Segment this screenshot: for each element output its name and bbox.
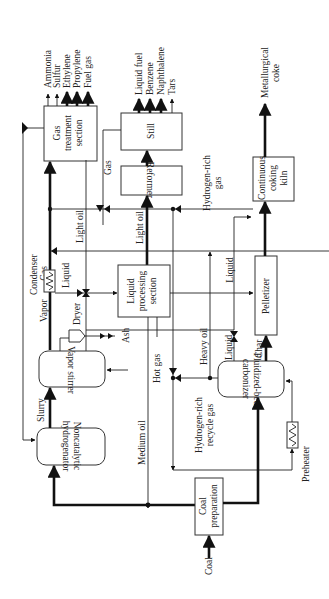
product-ethylene: Ethylene [62,54,72,88]
kiln-liquid-return [234,217,251,330]
heavy-oil-label: Heavy oil [199,327,209,365]
light-oil-label-2: Light oil [135,211,145,244]
hydrogen-rich-gas-label-2: gas [213,176,223,189]
product-tars: Tars [167,78,177,95]
svg-text:treatment: treatment [63,115,73,151]
condenser [44,270,55,292]
svg-text:hydrogenator: hydrogenator [61,421,71,472]
coal-label: Coal [204,557,214,575]
svg-text:section: section [74,119,84,146]
preheater-label: Preheater [301,445,311,482]
condenser-gas-line [50,247,329,255]
product-sulfur: Sulfur [52,63,62,88]
svg-text:processing: processing [137,270,147,311]
hydrogen-rich-gas-label: Hydrogen-rich [202,155,212,211]
svg-text:Hydrogen-rich: Hydrogen-rich [194,397,204,453]
liquid-label-condenser: Liquid [61,262,71,288]
char-label: Char [254,339,264,358]
svg-text:kiln: kiln [279,170,289,185]
svg-text:coking: coking [268,165,278,191]
metallurgical-coke-label: Metallurgical [260,47,270,98]
noncatalytic-hydrogenator-label: Noncatalytic hydrogenator [61,421,82,472]
slurry-label: Slurry [36,398,46,422]
vapor-label: Vapor [39,298,49,322]
process-flow-diagram: Gas treatment section Ammonia Sulfur Eth… [0,0,329,599]
ash-label: Ash [121,327,131,343]
gas-products: Ammonia Sulfur Ethylene Propylene Fuel g… [43,49,93,106]
coal-feed-to-carbonizer [223,398,258,503]
coal-feed-to-hydrogenator [54,466,195,505]
still-products: Liquid fuel Benzene Naphthalene Tars [134,47,177,113]
svg-text:section: section [148,277,158,304]
preheater [286,381,298,470]
gas-label-still: Gas [103,160,113,175]
product-benzene: Benzene [145,62,155,95]
medium-oil-label: Medium oil [137,420,147,465]
light-oil-label-1: Light oil [75,210,85,243]
svg-text:Gas: Gas [52,125,62,140]
liquid-label-right: Liquid [225,257,235,283]
condenser-label: Condenser [29,254,39,295]
product-fuel-gas: Fuel gas [83,56,93,88]
liquid-label-carbonizer: Liquid [224,334,234,360]
still-gas-line [103,130,121,225]
dryer-label: Dryer [72,302,82,325]
svg-text:preparation: preparation [209,484,219,528]
vapor-stirrer-label: Vapor stirrer [66,346,76,395]
svg-text:Liquid: Liquid [126,278,136,304]
svg-text:Fluidized-bed: Fluidized-bed [252,353,262,406]
product-naphthalene: Naphthalene [156,47,166,95]
metallurgical-coke-label-2: coke [271,64,281,82]
svg-text:Coal: Coal [198,497,208,515]
svg-text:Noncatalytic: Noncatalytic [72,422,82,471]
fluidized-bed-carbonizer-label: Fluidized-bed carbonizer [241,353,262,406]
product-liquid-fuel: Liquid fuel [134,52,144,95]
hydrogen-rich-recycle-gas-label: Hydrogen-rich recycle gas [194,397,215,453]
svg-text:Continuous: Continuous [257,156,267,200]
still-label: Still [146,123,156,139]
product-propylene: Propylene [72,49,82,88]
svg-text:carbonizer: carbonizer [241,359,251,400]
pelletizer-label: Pelletizer [261,277,271,314]
hot-gas-label: Hot gas [152,353,162,383]
condenser-liquid-line [55,289,117,297]
reformer-label: Reformer [145,162,155,199]
svg-text:recycle gas: recycle gas [205,403,215,446]
